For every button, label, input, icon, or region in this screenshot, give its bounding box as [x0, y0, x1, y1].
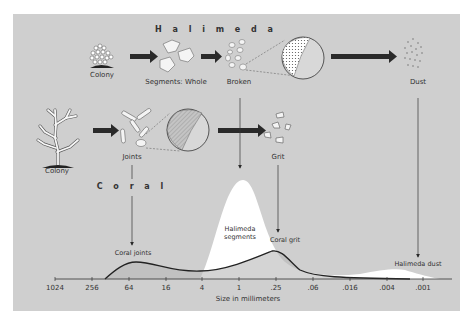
- coral-grit-label: Grit: [272, 153, 285, 161]
- axis-title: Size in millimeters: [216, 295, 281, 303]
- axis-tick: 4: [200, 284, 204, 292]
- halimeda-colony-icon: [90, 44, 114, 68]
- halimeda-colony-label: Colony: [90, 71, 114, 79]
- axis-tick: .001: [415, 284, 431, 292]
- coral-joints-label: Joints: [122, 153, 141, 161]
- halimeda-segments-icon: [160, 40, 194, 72]
- halimeda-segments-curve-label-2: segments: [224, 233, 256, 241]
- axis-tick: .06: [307, 284, 318, 292]
- coral-joints-icon: [120, 108, 151, 147]
- coral-colony-label: Colony: [45, 167, 69, 175]
- coral-grit-curve-label: Coral grit: [270, 236, 300, 244]
- axis-tick: 1: [237, 284, 241, 292]
- axis-tick: .25: [270, 284, 281, 292]
- axis-tick: .004: [379, 284, 395, 292]
- coral-magnified-icon: [167, 109, 209, 151]
- axis-tick: 256: [85, 284, 98, 292]
- halimeda-dust-label: Dust: [410, 78, 426, 86]
- halimeda-segments-curve-label-1: Halimeda: [225, 225, 256, 233]
- axis-tick: 1024: [46, 284, 64, 292]
- halimeda-title: H a l i m e d a: [155, 25, 277, 34]
- diagram-graphics: [0, 0, 472, 324]
- halimeda-magnified-icon: [282, 37, 324, 79]
- halimeda-broken-label: Broken: [227, 78, 251, 86]
- halimeda-dust-icon: [404, 38, 423, 68]
- halimeda-segments-label: Segments: Whole: [145, 78, 207, 86]
- axis-tick: 64: [125, 284, 134, 292]
- axis-tick: .016: [342, 284, 358, 292]
- coral-joints-curve-label: Coral joints: [115, 249, 152, 257]
- axis-tick: 16: [162, 284, 171, 292]
- halimeda-dust-curve-label: Halimeda dust: [394, 260, 441, 268]
- coral-grit-icon: [264, 112, 291, 143]
- coral-title: C o r a l: [97, 182, 168, 191]
- halimeda-broken-icon: [226, 40, 247, 71]
